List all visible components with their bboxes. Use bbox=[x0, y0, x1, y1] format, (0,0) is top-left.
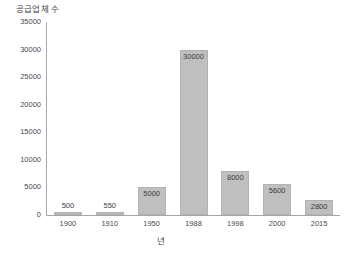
y-axis-tick: 5000 bbox=[0, 183, 41, 191]
y-axis-tick: 20000 bbox=[0, 101, 41, 109]
bar-value-label: 5600 bbox=[257, 186, 297, 195]
x-axis-tick: 1900 bbox=[47, 219, 89, 229]
bar[interactable] bbox=[54, 212, 82, 215]
bar-slot: 5600 bbox=[263, 22, 291, 215]
bar-slot: 500 bbox=[54, 22, 82, 215]
bar-slot: 30000 bbox=[180, 22, 208, 215]
bar-value-label: 500 bbox=[48, 201, 88, 210]
bar-slot: 5000 bbox=[138, 22, 166, 215]
x-axis-tick: 2000 bbox=[256, 219, 298, 229]
x-axis-tick: 1950 bbox=[131, 219, 173, 229]
y-axis-tick: 10000 bbox=[0, 156, 41, 164]
bar-slot: 8000 bbox=[221, 22, 249, 215]
bar-value-label: 30000 bbox=[174, 52, 214, 61]
x-axis-tick: 1910 bbox=[89, 219, 131, 229]
x-axis-tick-labels: 1900191019501988199820002015 bbox=[47, 219, 340, 233]
y-axis-tick: 35000 bbox=[0, 18, 41, 26]
bar-slot: 2800 bbox=[305, 22, 333, 215]
y-axis-tick: 30000 bbox=[0, 46, 41, 54]
x-axis-title-text: 년 bbox=[157, 236, 165, 246]
bar-value-label: 8000 bbox=[215, 173, 255, 182]
bar-value-label: 2800 bbox=[299, 202, 339, 211]
y-axis-tick: 25000 bbox=[0, 73, 41, 81]
bar-value-label: 5000 bbox=[132, 189, 172, 198]
y-axis-tick: 15000 bbox=[0, 128, 41, 136]
x-axis-tick: 1988 bbox=[173, 219, 215, 229]
bar-chart: 공급업체 수 050001000015000200002500030000350… bbox=[0, 0, 349, 254]
x-axis-title: 년 bbox=[0, 234, 349, 246]
bar[interactable] bbox=[96, 212, 124, 215]
bar-series: 500550500030000800056002800 bbox=[47, 22, 340, 215]
x-axis-tick: 1998 bbox=[214, 219, 256, 229]
y-axis-tick: 0 bbox=[0, 211, 41, 219]
x-axis-tick: 2015 bbox=[298, 219, 340, 229]
bar-value-label: 550 bbox=[90, 201, 130, 210]
bar-slot: 550 bbox=[96, 22, 124, 215]
bar[interactable] bbox=[180, 50, 208, 215]
